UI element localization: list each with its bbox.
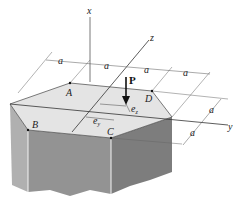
dim-a-3: a [144, 64, 149, 75]
dim-a-1: a [58, 55, 63, 66]
point-c-dot [110, 137, 112, 139]
x-axis-label: x [86, 5, 92, 16]
front-face [28, 130, 111, 196]
dim-a-2: a [104, 60, 109, 71]
column-diagram: x z y a a a a a a ey ez P A D B C [0, 0, 236, 205]
point-c-label: C [107, 126, 114, 137]
y-axis-label: y [227, 121, 233, 132]
dim-a-4: a [183, 67, 188, 78]
point-b-label: B [32, 119, 38, 130]
point-b-dot [27, 129, 29, 131]
point-a-label: A [65, 87, 73, 98]
dim-a-depth-1: a [209, 104, 214, 115]
point-d-label: D [144, 93, 153, 104]
z-axis-label: z [149, 32, 154, 43]
dim-a-depth-2: a [190, 127, 195, 138]
point-d-dot [151, 90, 153, 92]
load-label: P [129, 74, 136, 86]
point-a-dot [69, 82, 71, 84]
dim-line-depth [183, 99, 221, 145]
